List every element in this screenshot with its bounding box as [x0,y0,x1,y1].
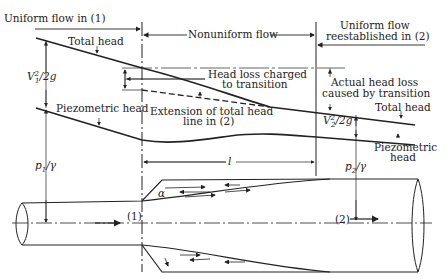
label-v1-velocity-head: V21/2g [27,70,57,85]
label-uniform-flow-1: Uniform flow in (1) [4,12,105,24]
label-piezometric-head-left: Piezometric head [56,102,149,114]
label-expansion-angle: α [158,187,165,199]
label-piezometric-head-right-line2: head [390,151,416,163]
label-transition-length: l [228,155,231,167]
label-section-1: (1) [127,210,142,222]
label-total-head-left: Total head [68,35,124,47]
label-actual-loss-line2: caused by transition [322,87,430,99]
label-uniform-flow-2-line2: reestablished in (2) [326,30,430,42]
label-p2-pressure-head: p2/γ [345,160,367,175]
label-v2-velocity-head: V22/2g [323,114,353,129]
label-nonuniform-flow: Nonuniform flow [188,28,278,40]
label-head-loss-line2: to transition [222,78,288,90]
label-total-head-right: Total head [375,101,431,113]
expansion-head-loss-diagram: Uniform flow in (1) Nonuniform flow Unif… [0,0,447,279]
label-extension-line2: line in (2) [183,115,234,127]
label-p1-pressure-head: p1/γ [35,159,57,174]
label-section-2: (2) [335,213,350,225]
